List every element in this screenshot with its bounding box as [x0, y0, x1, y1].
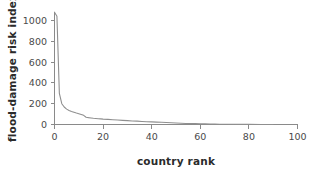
y-tick-label-600: 600 — [29, 57, 47, 68]
y-tick-label-0: 0 — [41, 119, 47, 130]
y-axis-title: flood-damage risk index — [6, 0, 18, 142]
y-tick-labels: 0 200 400 600 800 1000 — [23, 15, 47, 130]
y-tick-label-200: 200 — [29, 98, 47, 109]
chart-figure: 0 200 400 600 800 1000 0 20 40 60 80 100… — [0, 0, 317, 175]
x-axis-ticks — [55, 125, 298, 129]
y-tick-label-1000: 1000 — [23, 15, 47, 26]
x-tick-label-40: 40 — [146, 131, 158, 142]
y-axis-ticks — [51, 21, 55, 125]
x-tick-label-80: 80 — [243, 131, 255, 142]
x-tick-label-60: 60 — [194, 131, 206, 142]
flood-damage-risk-line-chart: 0 200 400 600 800 1000 0 20 40 60 80 100… — [0, 0, 317, 175]
y-tick-label-800: 800 — [29, 36, 47, 47]
x-tick-label-100: 100 — [288, 131, 306, 142]
flood-damage-risk-series — [55, 12, 274, 124]
x-axis-title: country rank — [137, 155, 216, 167]
x-tick-label-0: 0 — [51, 131, 57, 142]
x-tick-label-20: 20 — [97, 131, 109, 142]
y-tick-label-400: 400 — [29, 77, 47, 88]
x-tick-labels: 0 20 40 60 80 100 — [51, 131, 306, 142]
